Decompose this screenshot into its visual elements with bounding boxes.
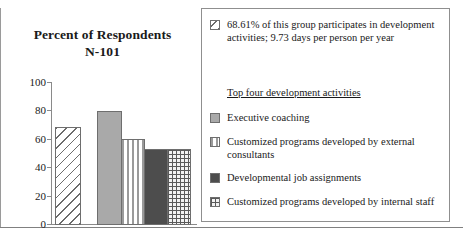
bar-series: [0, 82, 200, 225]
plot-area: 100 80 60 40 20 0: [0, 70, 200, 230]
solid-dark-swatch-icon: [210, 173, 220, 183]
legend-item-label: Executive coaching: [227, 112, 442, 125]
diagonal-hatch-swatch-icon: [210, 20, 220, 30]
bar-internal-staff-programs[interactable]: [167, 149, 191, 225]
legend-heading: Top four development activities: [227, 87, 361, 98]
legend-summary-note: 68.61% of this group participates in dev…: [210, 19, 442, 44]
bar-executive-coaching[interactable]: [97, 111, 122, 225]
legend-item-executive-coaching[interactable]: Executive coaching: [210, 112, 442, 125]
legend-item-label: Customized programs developed by interna…: [227, 196, 442, 209]
vertical-stripe-swatch-icon: [210, 137, 220, 147]
chart-title-line1: Percent of Respondents: [34, 27, 172, 42]
legend-item-label: Developmental job assignments: [227, 172, 442, 185]
legend-summary-note-text: 68.61% of this group participates in dev…: [227, 19, 442, 44]
bar-participation[interactable]: [55, 127, 81, 225]
legend-item-internal-staff-programs[interactable]: Customized programs developed by interna…: [210, 196, 442, 209]
chart-title-line2: N-101: [10, 43, 195, 60]
crosshatch-grid-swatch-icon: [210, 197, 220, 207]
bar-developmental-job-assignments[interactable]: [144, 149, 168, 225]
solid-gray-swatch-icon: [210, 113, 220, 123]
chart-title: Percent of Respondents N-101: [10, 26, 195, 60]
chart-figure: Percent of Respondents N-101 100 80 60 4…: [0, 0, 463, 243]
legend-item-label: Customized programs developed by externa…: [227, 136, 442, 161]
legend-panel: 68.61% of this group participates in dev…: [201, 8, 450, 222]
legend-item-developmental-job-assignments[interactable]: Developmental job assignments: [210, 172, 442, 185]
bar-external-consultant-programs[interactable]: [121, 139, 145, 225]
legend-item-external-consultant-programs[interactable]: Customized programs developed by externa…: [210, 136, 442, 161]
